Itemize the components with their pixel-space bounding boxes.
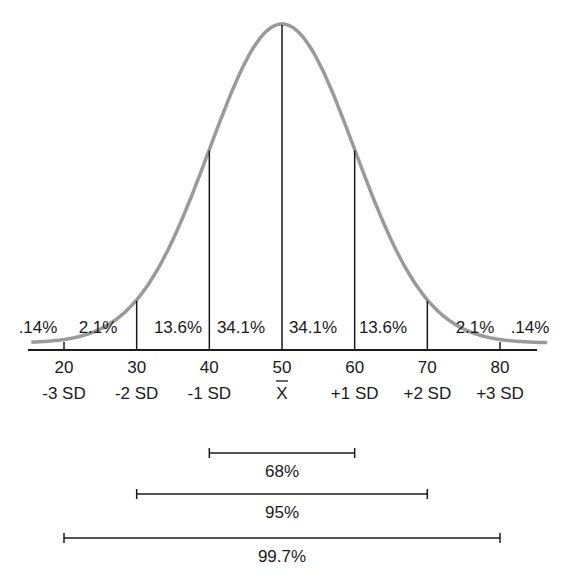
mean-label: X — [276, 384, 287, 403]
sd-label: +1 SD — [331, 384, 379, 403]
region-percentage-labels: .14%2.1%13.6%34.1%34.1%13.6%2.1%.14% — [19, 318, 550, 337]
bell-curve — [31, 24, 547, 343]
sd-label: -3 SD — [42, 384, 85, 403]
tick-label: 60 — [345, 358, 364, 377]
normal-distribution-chart: .14%2.1%13.6%34.1%34.1%13.6%2.1%.14% 203… — [0, 0, 563, 582]
sd-label: -1 SD — [188, 384, 231, 403]
sd-label: +2 SD — [403, 384, 451, 403]
interval-label: 68% — [265, 462, 299, 481]
sd-label: +3 SD — [476, 384, 524, 403]
tick-label: 80 — [491, 358, 510, 377]
interval-label: 99.7% — [258, 547, 306, 566]
region-label: 34.1% — [289, 318, 337, 337]
region-label: 13.6% — [359, 318, 407, 337]
x-tick-labels: 20304050607080 — [55, 358, 510, 377]
interval-label: 95% — [265, 503, 299, 522]
region-label: 2.1% — [456, 318, 495, 337]
sd-labels: -3 SD-2 SD-1 SDX+1 SD+2 SD+3 SD — [42, 381, 524, 403]
tick-label: 20 — [55, 358, 74, 377]
region-label: 13.6% — [154, 318, 202, 337]
sd-label: -2 SD — [115, 384, 158, 403]
region-label: 34.1% — [217, 318, 265, 337]
tick-label: 30 — [127, 358, 146, 377]
tick-label: 70 — [418, 358, 437, 377]
tick-label: 50 — [273, 358, 292, 377]
interval-brackets: 68%95%99.7% — [64, 448, 500, 566]
region-label: .14% — [19, 318, 58, 337]
region-label: .14% — [511, 318, 550, 337]
sd-divider-lines — [137, 25, 428, 350]
region-label: 2.1% — [79, 318, 118, 337]
tick-label: 40 — [200, 358, 219, 377]
